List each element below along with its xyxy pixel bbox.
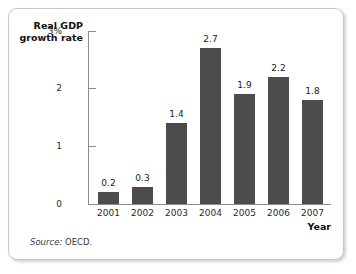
x-tick-label-2006: 2006 (262, 209, 295, 218)
bar-2005[interactable] (234, 94, 255, 204)
x-tick-label-2007: 2007 (296, 209, 329, 218)
bar-value-2004: 2.7 (194, 35, 227, 44)
bar-value-2003: 1.4 (160, 110, 193, 119)
bar-slot-2001[interactable]: 0.2 (92, 31, 125, 204)
chart-frame: Real GDP growth rate 0 1 2 3% 0.2 0.3 (8, 8, 344, 260)
x-tick-label-2004: 2004 (194, 209, 227, 218)
x-axis-title: Year (277, 221, 331, 232)
bar-value-2002: 0.3 (126, 174, 159, 183)
bar-group: 0.2 0.3 1.4 2.7 1.9 2.2 (88, 31, 331, 204)
bar-2001[interactable] (98, 192, 119, 204)
bar-value-2007: 1.8 (296, 87, 329, 96)
y-tick-mark-0 (89, 204, 96, 205)
x-tick-label-2002: 2002 (126, 209, 159, 218)
chart-plot-area: Real GDP growth rate 0 1 2 3% 0.2 0.3 (9, 9, 345, 261)
bar-value-2005: 1.9 (228, 81, 261, 90)
bar-2006[interactable] (268, 77, 289, 204)
bar-2003[interactable] (166, 123, 187, 204)
bar-slot-2007[interactable]: 1.8 (296, 31, 329, 204)
source-value: OECD. (65, 237, 92, 247)
y-tick-label-0: 0 (22, 200, 62, 209)
bar-slot-2003[interactable]: 1.4 (160, 31, 193, 204)
bar-slot-2006[interactable]: 2.2 (262, 31, 295, 204)
bar-2002[interactable] (132, 187, 153, 204)
bar-value-2001: 0.2 (92, 179, 125, 188)
y-tick-label-2: 2 (22, 84, 62, 93)
x-tick-label-2001: 2001 (92, 209, 125, 218)
x-tick-label-2005: 2005 (228, 209, 261, 218)
bar-2007[interactable] (302, 100, 323, 204)
bar-slot-2005[interactable]: 1.9 (228, 31, 261, 204)
y-tick-label-3: 3% (22, 27, 62, 36)
x-axis-line (88, 204, 331, 205)
bar-slot-2002[interactable]: 0.3 (126, 31, 159, 204)
y-tick-label-1: 1 (22, 142, 62, 151)
bar-slot-2004[interactable]: 2.7 (194, 31, 227, 204)
source-note: Source: OECD. (30, 237, 92, 247)
source-label: Source: (30, 237, 62, 247)
bar-2004[interactable] (200, 48, 221, 204)
bar-value-2006: 2.2 (262, 64, 295, 73)
x-tick-label-2003: 2003 (160, 209, 193, 218)
